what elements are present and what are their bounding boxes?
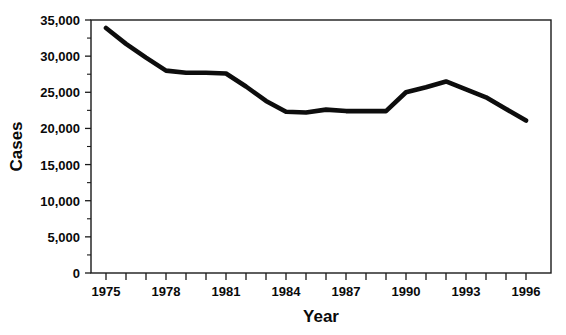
line-chart-figure: 05,00010,00015,00020,00025,00030,00035,0… xyxy=(0,0,566,335)
y-tick-label: 25,000 xyxy=(40,85,80,100)
x-tick-label: 1993 xyxy=(452,284,481,299)
y-tick-label: 10,000 xyxy=(40,194,80,209)
y-tick-label: 35,000 xyxy=(40,13,80,28)
y-tick-label: 15,000 xyxy=(40,158,80,173)
x-tick-label: 1978 xyxy=(152,284,181,299)
x-tick-label: 1984 xyxy=(272,284,302,299)
x-tick-label: 1981 xyxy=(212,284,241,299)
x-tick-label: 1987 xyxy=(332,284,361,299)
chart-canvas: 05,00010,00015,00020,00025,00030,00035,0… xyxy=(0,0,566,335)
y-tick-label: 20,000 xyxy=(40,121,80,136)
x-tick-label: 1975 xyxy=(92,284,121,299)
y-tick-label: 0 xyxy=(73,266,80,281)
x-tick-label: 1996 xyxy=(512,284,541,299)
y-axis-title: Cases xyxy=(7,121,26,171)
x-axis-title: Year xyxy=(303,307,339,326)
y-tick-label: 30,000 xyxy=(40,49,80,64)
x-tick-label: 1990 xyxy=(392,284,421,299)
y-tick-label: 5,000 xyxy=(47,230,80,245)
